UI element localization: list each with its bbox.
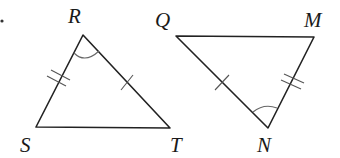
stray-mark (0, 19, 3, 22)
triangle-qmn-outline (176, 36, 314, 128)
vertex-label-m: M (303, 8, 323, 32)
vertex-label-n: N (256, 133, 272, 157)
vertex-label-q: Q (155, 8, 170, 32)
diagram-canvas: R S T Q M N (0, 0, 340, 158)
triangle-rst-outline (36, 35, 170, 128)
vertex-label-s: S (20, 133, 31, 157)
angle-r-arc (74, 51, 99, 58)
vertex-label-t: T (170, 133, 183, 157)
congruent-triangles-diagram: R S T Q M N (0, 0, 340, 158)
mn-double-tick-mark (281, 74, 304, 89)
angle-n-arc (253, 106, 277, 112)
vertex-label-r: R (67, 4, 81, 28)
